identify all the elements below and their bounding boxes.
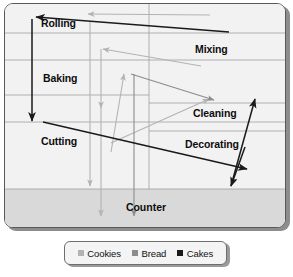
station-label-decorating: Decorating	[185, 138, 239, 150]
station-label-rolling: Rolling	[41, 17, 76, 29]
legend-label-bread: Bread	[141, 248, 166, 259]
station-label-cutting: Cutting	[41, 135, 77, 147]
counter-label: Counter	[5, 201, 286, 213]
legend-swatch-cookies-icon	[78, 250, 84, 256]
station-label-cleaning: Cleaning	[193, 107, 237, 119]
legend-label-cookies: Cookies	[87, 248, 121, 259]
legend-item-cakes: Cakes	[177, 248, 213, 259]
diagram-panel: Rolling Baking Cutting Mixing Cleaning D…	[4, 3, 286, 228]
legend-swatch-cakes-icon	[177, 250, 183, 256]
legend-label-cakes: Cakes	[187, 248, 213, 259]
station-label-baking: Baking	[43, 72, 77, 84]
floor-plan-graphic	[5, 4, 286, 228]
station-label-mixing: Mixing	[195, 43, 228, 55]
legend-item-bread: Bread	[132, 248, 166, 259]
legend: Cookies Bread Cakes	[64, 241, 227, 265]
legend-item-cookies: Cookies	[78, 248, 121, 259]
legend-swatch-bread-icon	[132, 250, 138, 256]
spaghetti-diagram-figure: Rolling Baking Cutting Mixing Cleaning D…	[0, 0, 293, 277]
